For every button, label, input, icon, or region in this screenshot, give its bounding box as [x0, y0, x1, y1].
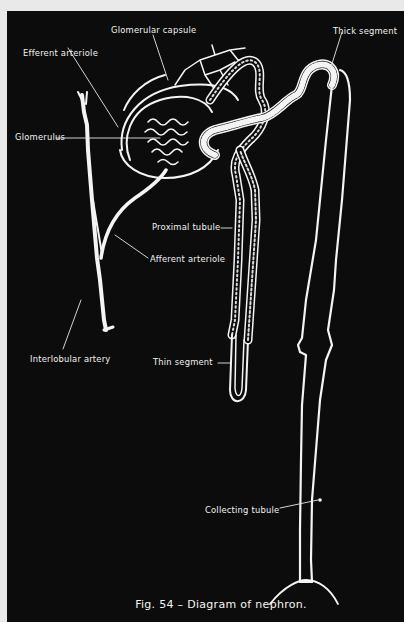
label-thick-segment: Thick segment	[333, 26, 397, 36]
label-glomerular-capsule: Glomerular capsule	[111, 25, 196, 35]
glomerular-capsule-shape	[122, 85, 238, 150]
afferent-arteriole-shape	[101, 170, 166, 258]
label-afferent-arteriole: Afferent arteriole	[150, 254, 225, 264]
figure-caption: Fig. 54 – Diagram of nephron.	[0, 598, 404, 611]
collecting-tubule-shape	[311, 70, 350, 582]
thin-segment-shape	[230, 335, 248, 401]
label-proximal-tubule: Proximal tubule	[152, 222, 220, 232]
glomerulus-shape	[145, 119, 188, 165]
label-efferent-arteriole: Efferent arteriole	[23, 48, 98, 58]
label-glomerulus: Glomerulus	[15, 132, 65, 142]
label-interlobular-artery: Interlobular artery	[30, 354, 111, 364]
nephron-illustration	[0, 0, 404, 622]
label-thin-segment: Thin segment	[153, 357, 213, 367]
label-collecting-tubule: Collecting tubule	[205, 505, 279, 515]
